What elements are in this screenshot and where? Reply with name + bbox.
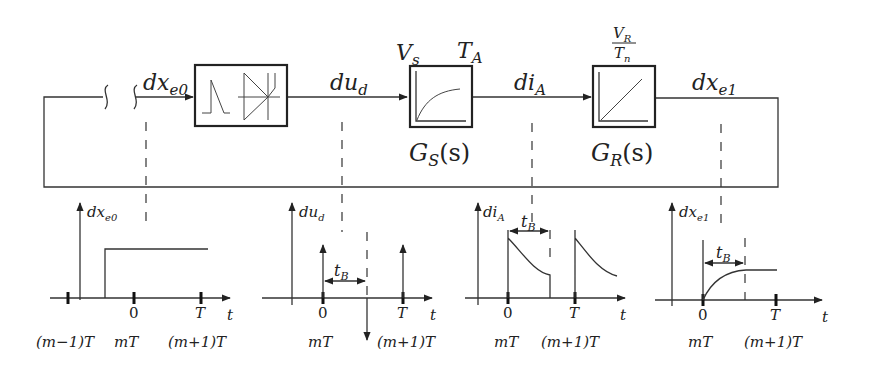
svg-text:mT: mT <box>114 333 139 351</box>
svg-text:(m+1)T: (m+1)T <box>377 333 436 351</box>
svg-text:t: t <box>227 306 234 324</box>
svg-text:0: 0 <box>318 304 328 322</box>
svg-text:T: T <box>770 306 781 324</box>
plot-diA: diA tB 0 T t mT (m+1)T <box>465 203 627 351</box>
plant-block <box>410 66 472 127</box>
svg-text:T: T <box>397 304 408 322</box>
svg-text:t: t <box>822 308 829 326</box>
break-symbol-icon <box>105 85 108 109</box>
svg-text:mT: mT <box>494 333 519 351</box>
signal-dud-label: dud <box>330 70 368 99</box>
signal-diA-label: diA <box>514 70 546 99</box>
svg-text:t: t <box>620 306 627 324</box>
svg-text:dud: dud <box>299 203 325 223</box>
svg-text:tB: tB <box>716 243 731 265</box>
svg-text:0: 0 <box>129 304 139 322</box>
plot-dud: dud tB 0 T t mT (m+1)T <box>262 203 437 351</box>
plot-dxe0: dxe0 0 T t (m−1)T mT (m+1)T <box>36 203 234 351</box>
block-diagram: dxe0 dud diA dxe1 Vs TA GS(s) VR Tn GR(s… <box>0 0 876 374</box>
svg-text:(m+1)T: (m+1)T <box>168 333 227 351</box>
svg-text:T: T <box>569 304 580 322</box>
svg-text:dxe0: dxe0 <box>87 203 118 223</box>
svg-text:0: 0 <box>698 306 708 324</box>
signal-dxe1-label: dxe1 <box>692 70 737 99</box>
svg-text:0: 0 <box>503 304 513 322</box>
svg-text:(m+1)T: (m+1)T <box>541 333 600 351</box>
plant-gain-label: Vs <box>396 40 420 69</box>
svg-text:diA: diA <box>483 203 505 223</box>
svg-text:mT: mT <box>688 333 713 351</box>
svg-text:tB: tB <box>521 212 536 234</box>
svg-text:t: t <box>430 306 437 324</box>
controller-gain-denominator: Tn <box>614 44 630 64</box>
svg-text:T: T <box>195 304 206 322</box>
plant-transfer-label: GS(s) <box>409 139 470 170</box>
signal-dxe0-label: dxe0 <box>143 70 188 99</box>
plot-dxe1: dxe1 tB 0 T t mT (m+1)T <box>655 203 829 351</box>
plant-timeconst-label: TA <box>457 38 483 67</box>
svg-text:(m+1)T: (m+1)T <box>744 333 803 351</box>
converter-block <box>195 65 287 126</box>
svg-text:mT: mT <box>308 333 333 351</box>
svg-text:dxe1: dxe1 <box>679 203 709 223</box>
controller-gain-numerator: VR <box>613 24 632 44</box>
controller-block <box>593 66 655 127</box>
svg-text:(m−1)T: (m−1)T <box>36 333 95 351</box>
svg-text:tB: tB <box>334 261 349 283</box>
controller-transfer-label: GR(s) <box>591 139 653 170</box>
